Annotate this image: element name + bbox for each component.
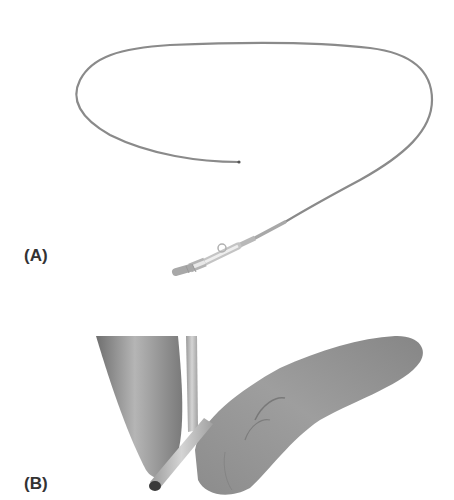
panel-b: (B): [0, 300, 454, 500]
catheter-tip: [237, 160, 240, 163]
tube-upper: [186, 336, 198, 432]
catheter-wire: [76, 43, 432, 222]
panel-label-b: (B): [24, 474, 48, 494]
panel-label-a: (A): [24, 246, 48, 266]
fingers-photo: [0, 300, 454, 500]
catheter-illustration: [0, 0, 454, 300]
catheter-hub: [176, 244, 238, 273]
panel-a: (A): [0, 0, 454, 300]
left-finger: [96, 336, 182, 478]
tube-opening: [149, 481, 161, 491]
right-finger: [195, 336, 423, 495]
